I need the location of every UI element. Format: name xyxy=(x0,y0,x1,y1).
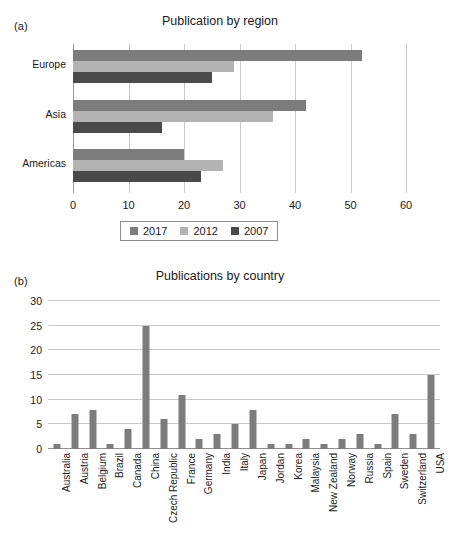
country-bar-slot: Jordan xyxy=(262,301,280,449)
region-chart-xtick-0: 0 xyxy=(70,193,76,211)
country-bar-slot: Russia xyxy=(351,301,369,449)
region-chart-xtick-20: 20 xyxy=(178,193,190,211)
legend-swatch-2007 xyxy=(231,227,239,235)
region-category-label: Europe xyxy=(32,58,66,70)
region-bar-2007 xyxy=(73,72,212,83)
legend-swatch-2017 xyxy=(130,227,138,235)
country-category-label: Jordan xyxy=(275,453,286,484)
panel-b-publications-by-country: (b) Publications by country 051015202530… xyxy=(0,255,451,534)
country-bar xyxy=(71,414,78,449)
panel-a-title: Publication by region xyxy=(70,14,370,28)
country-bar-slot: India xyxy=(208,301,226,449)
country-category-label: India xyxy=(221,453,232,475)
region-chart-gridline-60 xyxy=(406,44,407,193)
country-category-label: Switzerland xyxy=(417,453,428,505)
country-category-label: Germany xyxy=(203,453,214,494)
region-chart-xtick-50: 50 xyxy=(344,193,356,211)
country-bar-slot: New Zealand xyxy=(315,301,333,449)
region-bar-2012 xyxy=(73,111,273,122)
country-category-label: France xyxy=(186,453,197,484)
legend-item-2017: 2017 xyxy=(130,225,167,237)
country-category-label: Brazil xyxy=(114,453,125,478)
country-chart-ytick-20: 20 xyxy=(30,344,42,356)
country-bar xyxy=(125,429,132,449)
country-category-label: Italy xyxy=(239,453,250,471)
country-category-label: Malaysia xyxy=(310,453,321,492)
region-chart-plot-area: 0102030405060EuropeAsiaAmericas xyxy=(73,44,406,193)
country-category-label: Norway xyxy=(346,453,357,487)
country-bar xyxy=(107,444,114,449)
country-bar xyxy=(196,439,203,449)
country-category-label: New Zealand xyxy=(328,453,339,512)
country-bar xyxy=(338,439,345,449)
country-chart-ytick-25: 25 xyxy=(30,320,42,332)
country-bar-slot: France xyxy=(173,301,191,449)
country-bar-slot: Korea xyxy=(280,301,298,449)
legend-swatch-2012 xyxy=(180,227,188,235)
region-chart-legend: 2017 2012 2007 xyxy=(120,221,278,241)
country-bar xyxy=(178,395,185,449)
region-chart-xtick-10: 10 xyxy=(122,193,134,211)
panel-b-title: Publications by country xyxy=(70,269,370,283)
region-chart-xtick-30: 30 xyxy=(233,193,245,211)
legend-label-2012: 2012 xyxy=(193,225,217,237)
region-bar-2012 xyxy=(73,160,223,171)
country-chart-ytick-30: 30 xyxy=(30,295,42,307)
country-bar xyxy=(356,434,363,449)
country-bar xyxy=(410,434,417,449)
country-bar xyxy=(428,375,435,449)
region-bar-group: Americas xyxy=(73,149,406,182)
region-category-label: Americas xyxy=(22,157,66,169)
panel-b-tag: (b) xyxy=(14,275,28,287)
country-category-label: Belgium xyxy=(97,453,108,489)
panel-a-tag: (a) xyxy=(14,20,28,32)
region-bar-group: Europe xyxy=(73,50,406,83)
country-bar-slot: Sweden xyxy=(387,301,405,449)
region-bar-2007 xyxy=(73,171,201,182)
region-bar-2017 xyxy=(73,50,362,61)
country-bar xyxy=(232,424,239,449)
country-bar-slot: Australia xyxy=(48,301,66,449)
country-category-label: Czech Republic xyxy=(168,453,179,523)
country-bar-slot: Norway xyxy=(333,301,351,449)
country-bar xyxy=(392,414,399,449)
country-category-label: Austria xyxy=(79,453,90,484)
country-bar xyxy=(214,434,221,449)
country-bar xyxy=(374,444,381,449)
country-bar xyxy=(160,419,167,449)
country-bar-slot: Austria xyxy=(66,301,84,449)
country-bar xyxy=(142,326,149,449)
country-chart-plot-area: 051015202530AustraliaAustriaBelgiumBrazi… xyxy=(48,301,440,449)
country-bar xyxy=(53,444,60,449)
legend-item-2012: 2012 xyxy=(180,225,217,237)
country-chart-ytick-5: 5 xyxy=(36,418,42,430)
country-bar xyxy=(303,439,310,449)
country-category-label: USA xyxy=(435,453,446,474)
region-chart-xtick-40: 40 xyxy=(289,193,301,211)
country-chart-ytick-0: 0 xyxy=(36,443,42,455)
country-category-label: China xyxy=(150,453,161,479)
region-category-label: Asia xyxy=(46,108,66,120)
country-bar-slot: Switzerland xyxy=(404,301,422,449)
figure-caption-strip xyxy=(0,524,451,534)
country-bar-slot: Japan xyxy=(244,301,262,449)
country-chart-ytick-15: 15 xyxy=(30,369,42,381)
country-bar-slot: Brazil xyxy=(101,301,119,449)
country-bar-slot: Belgium xyxy=(84,301,102,449)
legend-item-2007: 2007 xyxy=(231,225,268,237)
country-chart-ytick-10: 10 xyxy=(30,394,42,406)
country-category-label: Japan xyxy=(257,453,268,480)
country-bar xyxy=(249,410,256,449)
region-bar-2017 xyxy=(73,100,306,111)
country-bar-slot: Spain xyxy=(369,301,387,449)
country-category-label: Australia xyxy=(61,453,72,492)
country-category-label: Korea xyxy=(293,453,304,480)
country-bar-slot: Malaysia xyxy=(297,301,315,449)
region-bar-2017 xyxy=(73,149,184,160)
region-bar-2012 xyxy=(73,61,234,72)
region-bar-2007 xyxy=(73,122,162,133)
panel-a-publication-by-region: (a) Publication by region 0102030405060E… xyxy=(0,0,451,255)
legend-label-2007: 2007 xyxy=(244,225,268,237)
country-bar-slot: Canada xyxy=(119,301,137,449)
country-bar-slot: Germany xyxy=(191,301,209,449)
